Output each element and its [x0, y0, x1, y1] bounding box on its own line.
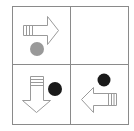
arrow-left-icon: [82, 88, 117, 113]
cell-bottom-right: [82, 74, 117, 113]
arrow-down-icon: [23, 77, 51, 113]
puzzle-grid: [0, 0, 134, 131]
cell-bottom-left: [23, 77, 63, 113]
matrix-puzzle: [0, 0, 134, 131]
cell-top-left: [24, 17, 59, 57]
black-dot-icon: [98, 74, 111, 87]
black-dot-icon: [48, 82, 62, 96]
arrow-right-icon: [24, 17, 59, 45]
gray-dot-icon: [30, 42, 44, 56]
